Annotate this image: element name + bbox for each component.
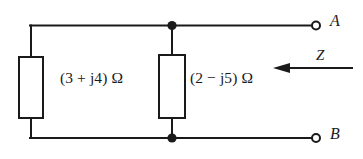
circuit-schematic-canvas [0,0,363,159]
terminal-node-a [312,22,320,30]
impedance-direction-arrow [273,63,353,73]
terminal-label-a: A [330,13,340,29]
impedance-right-body [159,55,185,118]
impedance-left-body [19,57,43,118]
terminal-label-b: B [330,126,340,142]
impedance-left-label: (3 + j4) Ω [60,70,123,86]
impedance-symbol-label: Z [316,48,324,63]
terminal-node-b [312,134,320,142]
circuit-diagram: (3 + j4) Ω (2 − j5) Ω A B Z [0,0,363,159]
junction-dot-top [167,21,176,30]
junction-dot-bottom [167,133,176,142]
impedance-right-label: (2 − j5) Ω [190,70,253,86]
